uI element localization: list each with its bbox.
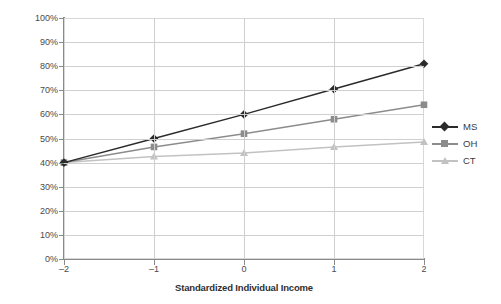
legend-item-ms[interactable]: MS xyxy=(432,118,498,135)
y-tickmark xyxy=(59,187,64,188)
legend-marker-triangle-icon xyxy=(441,157,449,164)
legend-swatch-oh xyxy=(432,138,458,150)
chart-container: Probability of Voting Republican 0%10%20… xyxy=(0,0,501,304)
y-tick-label: 70% xyxy=(24,85,58,95)
y-tickmark xyxy=(59,163,64,164)
gridline-vertical xyxy=(154,18,155,259)
y-tickmark xyxy=(59,90,64,91)
gridline-vertical xyxy=(244,18,245,259)
y-tickmark xyxy=(59,114,64,115)
y-tick-label: 0% xyxy=(24,254,58,264)
y-tickmark xyxy=(59,66,64,67)
y-tickmark xyxy=(59,18,64,19)
legend-item-oh[interactable]: OH xyxy=(432,135,498,152)
x-axis-tick-labels: –2–1012 xyxy=(0,264,501,278)
x-tick-label: –1 xyxy=(139,264,169,274)
data-point-marker-square xyxy=(421,101,428,108)
y-tick-label: 50% xyxy=(24,134,58,144)
y-tickmark xyxy=(59,211,64,212)
legend-swatch-ms xyxy=(432,121,458,133)
y-tick-label: 40% xyxy=(24,158,58,168)
y-tick-label: 80% xyxy=(24,61,58,71)
legend-swatch-ct xyxy=(432,155,458,167)
y-tick-label: 90% xyxy=(24,37,58,47)
y-tick-label: 20% xyxy=(24,206,58,216)
chart-legend: MSOHCT xyxy=(432,118,498,169)
legend-marker-diamond-icon xyxy=(440,121,450,131)
legend-label: CT xyxy=(458,155,476,166)
x-tick-label: 0 xyxy=(229,264,259,274)
y-tickmark xyxy=(59,139,64,140)
y-tickmark xyxy=(59,235,64,236)
y-tick-label: 30% xyxy=(24,182,58,192)
y-tick-label: 100% xyxy=(24,13,58,23)
y-tickmark xyxy=(59,42,64,43)
y-tick-label: 60% xyxy=(24,109,58,119)
x-tick-label: 2 xyxy=(409,264,439,274)
x-tick-label: –2 xyxy=(49,264,79,274)
plot-area xyxy=(64,18,424,259)
x-axis-title: Standardized Individual Income xyxy=(64,282,424,293)
legend-marker-square-icon xyxy=(441,140,448,147)
y-tick-label: 10% xyxy=(24,230,58,240)
gridline-vertical xyxy=(334,18,335,259)
legend-label: OH xyxy=(458,138,477,149)
x-tick-label: 1 xyxy=(319,264,349,274)
legend-label: MS xyxy=(458,121,477,132)
legend-item-ct[interactable]: CT xyxy=(432,152,498,169)
y-axis-tick-labels: 0%10%20%30%40%50%60%70%80%90%100% xyxy=(24,18,58,259)
